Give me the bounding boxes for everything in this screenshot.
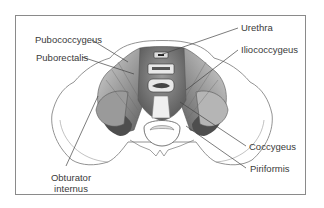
label-coccygeus: Coccygeus [249,141,296,152]
label-obturator-line1: Obturator [48,172,94,183]
label-piriformis: Piriformis [250,163,290,174]
anus-opening [148,79,174,92]
label-obturator-internus: Obturator internus [48,172,94,194]
label-pubococcygeus: Pubococcygeus [35,34,102,45]
label-iliococcygeus: Iliococcygeus [241,44,298,55]
label-puborectalis: Puborectalis [36,52,88,63]
vagina-opening [148,64,174,74]
label-obturator-line2: internus [48,183,94,194]
label-urethra: Urethra [241,22,273,33]
coccyx [152,96,170,118]
